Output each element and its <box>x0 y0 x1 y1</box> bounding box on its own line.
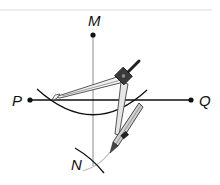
pencil-arc-trace <box>83 152 110 171</box>
label-M: M <box>88 12 101 29</box>
label-N: N <box>71 156 82 173</box>
compass-icon <box>52 61 143 153</box>
compass-construction-diagram: M P Q N <box>0 0 220 185</box>
point-P <box>27 97 32 102</box>
label-P: P <box>12 92 22 109</box>
point-Q <box>188 97 193 102</box>
label-Q: Q <box>199 92 211 109</box>
point-M <box>90 32 95 37</box>
arc-centered-M <box>37 89 147 115</box>
